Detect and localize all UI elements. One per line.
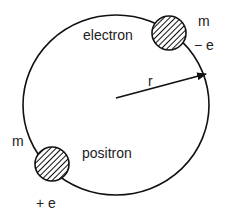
- radius-label: r: [148, 73, 153, 89]
- positron-ball: [35, 147, 69, 181]
- electron-ball: [152, 16, 186, 50]
- positron-mass-label: m: [12, 133, 24, 149]
- orbit-diagram: r electron m − e positron m + e: [0, 0, 228, 215]
- electron-charge-label: − e: [194, 37, 214, 53]
- radius-arrow: [116, 74, 206, 98]
- electron-label: electron: [83, 27, 133, 43]
- positron-charge-label: + e: [36, 195, 56, 211]
- positron-particle: [35, 147, 69, 181]
- electron-particle: [152, 16, 186, 50]
- positron-label: positron: [82, 145, 132, 161]
- electron-mass-label: m: [198, 13, 210, 29]
